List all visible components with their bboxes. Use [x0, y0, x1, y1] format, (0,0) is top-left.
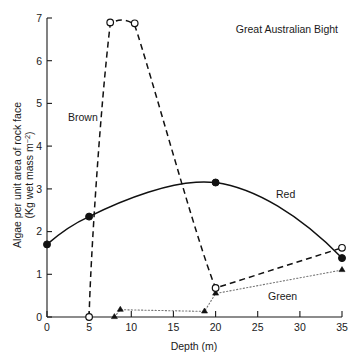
algae-depth-line-chart: Algae per unit area of rock face (Kg wet… [0, 0, 360, 362]
y-axis-label-line2: (Kg wet mass m−2) [23, 132, 35, 219]
series-green-marker-2 [202, 308, 208, 313]
x-tick-label-0: 0 [44, 321, 50, 333]
series-green [111, 267, 345, 319]
y-axis-label: Algae per unit area of rock face (Kg wet… [11, 102, 35, 248]
y-tick-label-6: 6 [36, 55, 42, 67]
x-tick-label-5: 5 [86, 321, 92, 333]
series-brown-marker-1 [107, 19, 114, 26]
y-axis-label-line2-pre: (Kg wet mass m [23, 143, 35, 219]
series-label-green: Green [268, 290, 297, 302]
x-tick-label-30: 30 [294, 321, 306, 333]
y-tick-label-4: 4 [36, 140, 42, 152]
x-axis-label: Depth (m) [171, 340, 218, 352]
x-tick-label-35: 35 [336, 321, 348, 333]
chart-title: Great Australian Bight [236, 23, 338, 35]
series-label-red: Red [276, 188, 295, 200]
y-axis-label-line1: Algae per unit area of rock face [11, 102, 23, 248]
series-red [44, 179, 346, 262]
series-label-brown: Brown [68, 111, 98, 123]
y-tick-label-2: 2 [36, 225, 42, 237]
series-green-marker-1 [117, 306, 123, 311]
y-tick-label-0: 0 [36, 311, 42, 323]
x-axis-tick-labels: 0 5 10 15 20 25 30 35 [44, 321, 348, 333]
series-brown-line [89, 20, 342, 317]
y-axis-label-superscript: −2 [23, 135, 32, 143]
series-brown-marker-3 [212, 285, 219, 292]
series-green-line [114, 270, 342, 317]
series-brown [86, 19, 346, 320]
series-green-marker-4 [339, 267, 345, 272]
series-red-line [47, 182, 342, 258]
y-tick-label-1: 1 [36, 268, 42, 280]
y-axis-tick-labels: 0 1 2 3 4 5 6 7 [36, 12, 42, 323]
x-tick-label-20: 20 [210, 321, 222, 333]
y-tick-label-5: 5 [36, 97, 42, 109]
y-axis-ticks [47, 18, 52, 317]
y-tick-label-3: 3 [36, 183, 42, 195]
series-red-marker-3 [339, 255, 346, 262]
x-tick-label-10: 10 [125, 321, 137, 333]
y-axis-label-line2-post: ) [23, 132, 35, 136]
series-red-marker-0 [44, 241, 51, 248]
y-tick-label-7: 7 [36, 12, 42, 24]
series-brown-marker-0 [86, 314, 93, 321]
x-tick-label-15: 15 [168, 321, 180, 333]
series-red-marker-2 [212, 179, 219, 186]
chart-figure: Algae per unit area of rock face (Kg wet… [0, 0, 360, 362]
series-brown-marker-2 [131, 20, 138, 27]
series-red-marker-1 [86, 213, 93, 220]
series-brown-marker-4 [339, 245, 346, 252]
x-tick-label-25: 25 [252, 321, 264, 333]
